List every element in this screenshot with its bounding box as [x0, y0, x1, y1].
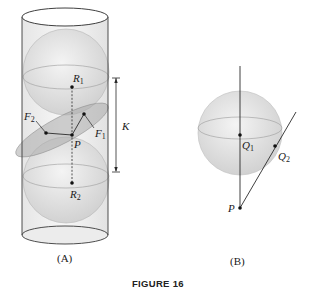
label-p-b: P: [227, 202, 235, 214]
point-q1: [238, 133, 242, 137]
panel-b-caption: (B): [230, 255, 245, 268]
point-f1: [82, 112, 86, 116]
figure-canvas: R1 R2 P F1 F2 K (A) Q1 Q2 P (B) FIGURE 1…: [0, 0, 311, 291]
point-r1: [70, 85, 74, 89]
k-arrow-top: [114, 78, 117, 83]
point-r2: [70, 181, 74, 185]
panel-b: Q1 Q2 P (B): [198, 66, 296, 268]
point-p-b: [238, 206, 242, 210]
cylinder-top: [22, 8, 108, 26]
point-p: [70, 133, 74, 137]
label-k: K: [121, 120, 130, 132]
point-q2: [273, 144, 277, 148]
figure-caption: FIGURE 16: [132, 278, 184, 289]
panel-a-caption: (A): [57, 252, 73, 265]
k-arrow-bottom: [114, 167, 117, 172]
label-q2: Q2: [278, 150, 290, 164]
point-f2: [44, 131, 48, 135]
cylinder-bottom: [22, 226, 108, 244]
panel-a: R1 R2 P F1 F2 K (A): [10, 8, 130, 265]
label-p-a: P: [73, 138, 81, 150]
upper-sphere: [23, 29, 109, 115]
